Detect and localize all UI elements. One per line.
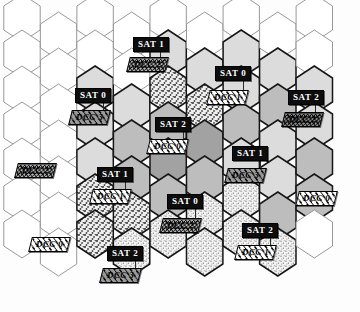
sat-label: SAT 0	[75, 88, 111, 103]
hex-cell	[40, 228, 76, 276]
dcc-label-text: DCC 0	[154, 141, 181, 152]
hex-cell	[296, 210, 332, 258]
dcc-label: DCC 3	[68, 110, 111, 125]
sat-label: SAT 0	[215, 66, 251, 81]
sat-label: SAT 2	[155, 117, 191, 132]
dcc-label-text: DCC 1	[214, 92, 241, 103]
dcc-label: DCC 3	[224, 168, 267, 183]
cellular-coverage-figure: SAT 1DCC 2SAT 0DCC 3SAT 0DCC 1SAT 2DCC 2…	[0, 0, 360, 312]
dcc-label: DCC 2	[159, 218, 202, 233]
sat-label: SAT 2	[242, 223, 278, 238]
dcc-label: DCC 1	[234, 245, 277, 260]
hex-cell	[187, 228, 223, 276]
dcc-label-text: DCC 1	[242, 247, 269, 258]
sat-label: SAT 1	[232, 146, 268, 161]
dcc-label-standalone: DCC 0	[295, 191, 338, 206]
sat-label: SAT 0	[167, 194, 203, 209]
dcc-label-text: DCC 2	[167, 220, 194, 231]
dcc-label: DCC 3	[99, 268, 142, 283]
dcc-label-standalone: DCC 0	[28, 237, 71, 252]
dcc-label-text: DCC 2	[134, 59, 161, 70]
dcc-label-text: DCC 3	[232, 170, 259, 181]
dcc-label-text: DCC 3	[76, 112, 103, 123]
dcc-label-text: DCC 0	[303, 193, 330, 204]
dcc-label-text: DCC 3	[107, 270, 134, 281]
dcc-label-standalone: DCC 2	[14, 163, 57, 178]
dcc-label: DCC 1	[89, 189, 132, 204]
dcc-label: DCC 2	[126, 57, 169, 72]
sat-label: SAT 1	[133, 37, 169, 52]
sat-label: SAT 2	[288, 90, 324, 105]
dcc-label-text: DCC 0	[36, 239, 63, 250]
dcc-label-text: DCC 1	[97, 191, 124, 202]
sat-label: SAT 1	[97, 167, 133, 182]
dcc-label: DCC 1	[206, 90, 249, 105]
dcc-label: DCC 0	[146, 139, 189, 154]
dcc-label-text: DCC 2	[22, 165, 49, 176]
dcc-label-text: DCC 2	[289, 114, 316, 125]
dcc-label: DCC 2	[281, 112, 324, 127]
hexagon-grid	[0, 0, 360, 312]
sat-label: SAT 2	[107, 246, 143, 261]
